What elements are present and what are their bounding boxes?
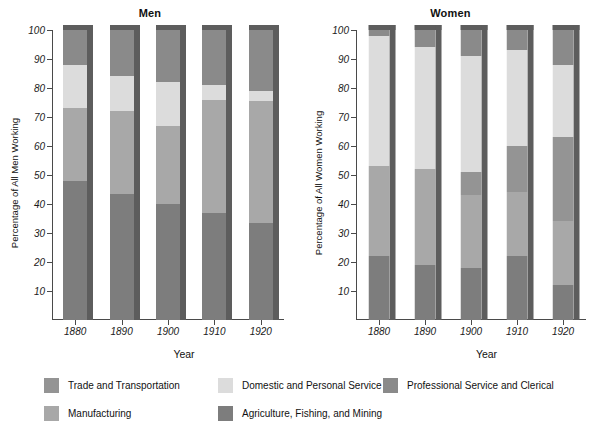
legend-item[interactable]: Trade and Transportation: [44, 378, 180, 393]
y-tick: [47, 262, 52, 263]
y-tick-label: 70: [338, 112, 349, 123]
legend-item[interactable]: Domestic and Personal Service: [218, 378, 382, 393]
bar-1880[interactable]: [369, 30, 390, 320]
bar-segment: [461, 30, 482, 56]
legend-swatch: [218, 406, 233, 421]
bar-body: [249, 30, 273, 320]
x-axis-label-men: Year: [0, 348, 334, 360]
y-tick-label: 70: [34, 112, 45, 123]
plot-area-men: 1020304050607080901001880189019001910192…: [52, 30, 284, 320]
y-tick-label: 100: [28, 25, 45, 36]
y-axis-label-men: Percentage of All Men Working: [9, 118, 20, 248]
bar-segment: [369, 166, 390, 256]
y-tick: [47, 59, 52, 60]
bar-body: [461, 30, 482, 320]
bar-1900[interactable]: [461, 30, 482, 320]
bar-segment: [415, 265, 436, 320]
y-tick: [351, 233, 356, 234]
x-tick: [122, 320, 123, 325]
bar-segment: [553, 137, 574, 221]
bar-segment: [156, 126, 180, 204]
y-axis-line: [356, 30, 357, 320]
bar-segment: [507, 146, 528, 192]
bar-side-face: [528, 25, 534, 320]
bar-segment: [110, 30, 134, 76]
y-tick-label: 30: [34, 228, 45, 239]
bar-segment: [63, 30, 87, 65]
y-tick: [351, 262, 356, 263]
panel-women: Women Percentage of All Women Working 10…: [300, 0, 601, 366]
bar-segment: [110, 194, 134, 320]
y-tick-label: 10: [34, 286, 45, 297]
bar-1920[interactable]: [249, 30, 273, 320]
chart-legend: Trade and TransportationDomestic and Per…: [0, 366, 601, 432]
legend-item[interactable]: Agriculture, Fishing, and Mining: [218, 406, 382, 421]
bar-side-face: [390, 25, 396, 320]
y-tick-label: 100: [332, 25, 349, 36]
panel-title-men: Men: [0, 7, 300, 19]
bar-segment: [110, 76, 134, 111]
figure-root: Men Percentage of All Men Working 102030…: [0, 0, 601, 432]
legend-item[interactable]: Professional Service and Clerical: [383, 378, 554, 393]
legend-swatch: [218, 378, 233, 393]
y-tick: [351, 291, 356, 292]
bar-1920[interactable]: [553, 30, 574, 320]
y-tick: [47, 291, 52, 292]
bar-segment: [415, 30, 436, 47]
bar-segment: [156, 82, 180, 126]
bar-segment: [202, 100, 226, 213]
y-tick-label: 80: [34, 83, 45, 94]
bar-segment: [156, 204, 180, 320]
legend-swatch: [44, 378, 59, 393]
bar-side-face: [273, 25, 279, 320]
bar-1890[interactable]: [415, 30, 436, 320]
y-tick: [351, 146, 356, 147]
bar-1890[interactable]: [110, 30, 134, 320]
y-tick-label: 60: [34, 141, 45, 152]
legend-item[interactable]: Manufacturing: [44, 406, 131, 421]
y-tick-label: 20: [338, 257, 349, 268]
bar-body: [415, 30, 436, 320]
bar-body: [156, 30, 180, 320]
bar-segment: [553, 65, 574, 138]
bar-1910[interactable]: [202, 30, 226, 320]
y-tick-label: 90: [34, 54, 45, 65]
x-tick: [425, 320, 426, 325]
bar-segment: [110, 111, 134, 194]
bar-body: [369, 30, 390, 320]
x-tick: [471, 320, 472, 325]
legend-swatch: [383, 378, 398, 393]
bar-side-face: [574, 25, 580, 320]
bar-body: [553, 30, 574, 320]
bar-segment: [202, 85, 226, 100]
y-tick: [351, 175, 356, 176]
y-tick-label: 10: [338, 286, 349, 297]
y-tick-label: 90: [338, 54, 349, 65]
y-tick-label: 60: [338, 141, 349, 152]
bar-1900[interactable]: [156, 30, 180, 320]
legend-label: Trade and Transportation: [68, 380, 180, 391]
legend-label: Agriculture, Fishing, and Mining: [242, 408, 382, 419]
y-tick-label: 40: [338, 199, 349, 210]
y-tick: [351, 88, 356, 89]
bar-segment: [63, 65, 87, 109]
bar-side-face: [180, 25, 186, 320]
bar-segment: [553, 30, 574, 65]
y-tick-label: 80: [338, 83, 349, 94]
y-tick: [47, 88, 52, 89]
bar-segment: [553, 221, 574, 285]
y-tick-label: 50: [338, 170, 349, 181]
bar-segment: [461, 56, 482, 172]
bar-1910[interactable]: [507, 30, 528, 320]
y-tick: [351, 204, 356, 205]
bar-segment: [249, 223, 273, 320]
bar-1880[interactable]: [63, 30, 87, 320]
y-tick: [47, 117, 52, 118]
y-tick-label: 20: [34, 257, 45, 268]
x-tick: [214, 320, 215, 325]
bar-segment: [415, 47, 436, 169]
bar-side-face: [87, 25, 93, 320]
bar-segment: [507, 192, 528, 256]
y-tick: [47, 146, 52, 147]
x-tick: [517, 320, 518, 325]
